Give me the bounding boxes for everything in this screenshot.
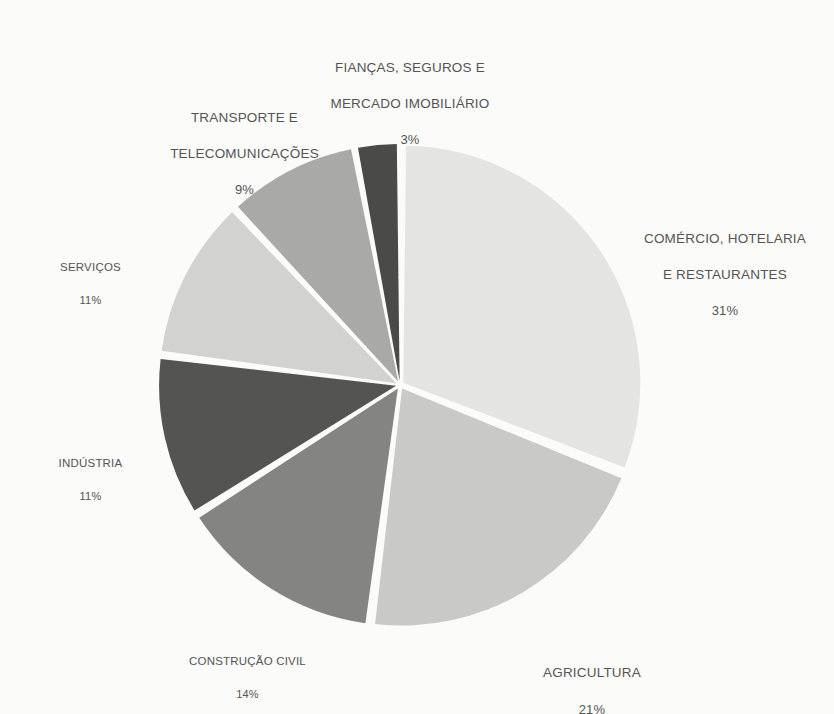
slice-label-comercio-line1: COMÉRCIO, HOTELARIA — [618, 231, 832, 247]
slice-label-industria-text: INDÚSTRIA — [8, 456, 173, 470]
slice-label-servicos-text: SERVIÇOS — [8, 260, 173, 274]
slice-label-comercio: COMÉRCIO, HOTELARIA E RESTAURANTES 31% — [618, 211, 832, 339]
slice-value-industria: 11% — [8, 490, 173, 503]
pie-chart: FIANÇAS, SEGUROS E MERCADO IMOBILIÁRIO 3… — [0, 0, 834, 714]
slice-label-transporte-line1: TRANSPORTE E — [142, 110, 347, 126]
slice-label-construcao-civil-text: CONSTRUÇÃO CIVIL — [135, 654, 360, 668]
slice-label-servicos: SERVIÇOS 11% — [8, 240, 173, 327]
slice-label-transporte: TRANSPORTE E TELECOMUNICAÇÕES 9% — [142, 90, 347, 218]
slice-value-agricultura: 21% — [497, 702, 687, 714]
slice-label-fiancas-line1: FIANÇAS, SEGUROS E — [295, 60, 525, 76]
slice-label-construcao-civil: CONSTRUÇÃO CIVIL 14% — [135, 634, 360, 714]
slice-label-comercio-line2: E RESTAURANTES — [618, 267, 832, 283]
slice-value-construcao-civil: 14% — [135, 688, 360, 701]
slice-value-transporte: 9% — [142, 182, 347, 198]
slice-label-transporte-line2: TELECOMUNICAÇÕES — [142, 146, 347, 162]
slice-value-comercio: 31% — [618, 303, 832, 319]
slice-label-agricultura: AGRICULTURA 21% — [497, 645, 687, 714]
slice-label-agricultura-text: AGRICULTURA — [497, 665, 687, 681]
slice-label-industria: INDÚSTRIA 11% — [8, 436, 173, 523]
slice-value-servicos: 11% — [8, 294, 173, 307]
